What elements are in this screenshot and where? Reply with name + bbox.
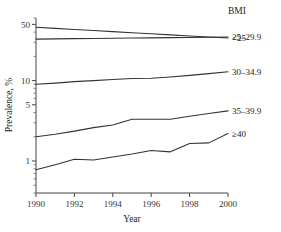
legend-title: BMI bbox=[228, 6, 246, 16]
y-axis-title: Prevalence, % bbox=[4, 78, 14, 132]
y-axis-ticks bbox=[32, 18, 36, 193]
y-axis-tick-label: 50 bbox=[21, 20, 31, 30]
x-axis-tick-label: 1990 bbox=[27, 199, 46, 209]
legend-label: ≥40 bbox=[232, 129, 246, 139]
y-axis-tick-label: 1 bbox=[26, 156, 31, 166]
series-line bbox=[36, 37, 228, 39]
x-axis-ticks bbox=[36, 193, 228, 197]
data-series-group bbox=[36, 27, 228, 169]
x-axis-title: Year bbox=[123, 214, 141, 224]
legend-label: 25–29.9 bbox=[232, 32, 262, 42]
series-line bbox=[36, 133, 228, 169]
x-axis-tick-label: 1996 bbox=[142, 199, 161, 209]
bmi-prevalence-line-chart: 501051 199019921994199619982000 BMI <252… bbox=[0, 0, 281, 232]
series-line bbox=[36, 27, 228, 38]
x-axis: 199019921994199619982000 bbox=[27, 193, 238, 209]
series-line bbox=[36, 72, 228, 85]
x-axis-tick-labels: 199019921994199619982000 bbox=[27, 199, 238, 209]
figure-container: 501051 199019921994199619982000 BMI <252… bbox=[0, 0, 281, 232]
y-axis-tick-labels: 501051 bbox=[21, 20, 31, 167]
legend-label: 30–34.9 bbox=[232, 67, 262, 77]
y-axis-tick-label: 10 bbox=[21, 76, 31, 86]
legend-labels: <2525–29.930–34.935–39.9≥40 bbox=[232, 32, 262, 138]
x-axis-tick-label: 1998 bbox=[181, 199, 200, 209]
y-axis-tick-label: 5 bbox=[26, 100, 31, 110]
series-line bbox=[36, 111, 228, 137]
x-axis-tick-label: 1994 bbox=[104, 199, 123, 209]
legend-label: 35–39.9 bbox=[232, 106, 262, 116]
x-axis-tick-label: 1992 bbox=[65, 199, 83, 209]
x-axis-tick-label: 2000 bbox=[219, 199, 238, 209]
y-axis: 501051 bbox=[21, 18, 36, 193]
legend: BMI <2525–29.930–34.935–39.9≥40 bbox=[228, 6, 262, 139]
